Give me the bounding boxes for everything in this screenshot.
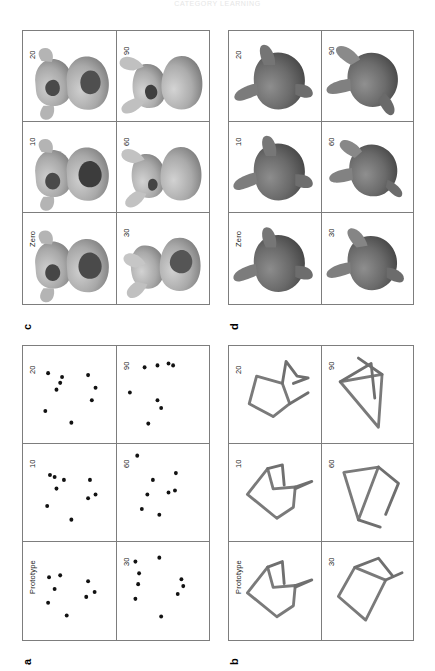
panel-c: 20 [22, 30, 210, 305]
panel-d-label-zero: Zero [234, 231, 243, 247]
wireframe-20 [229, 346, 321, 443]
panel-c-label-10: 10 [28, 137, 37, 146]
panel-d-grid: 20 [229, 31, 413, 304]
panel-a-cell-60: 60 [116, 444, 209, 542]
creature-head-20 [229, 31, 321, 121]
figure-page: CATEGORY LEARNING [0, 0, 435, 671]
panel-b-cell-60: 60 [321, 444, 413, 542]
panel-d-cell-zero: Zero [229, 213, 321, 304]
panel-b-grid: 20 90 [229, 346, 413, 640]
panel-b-label-60: 60 [327, 459, 336, 468]
creature-head-60 [322, 122, 413, 212]
creature-head-30 [322, 213, 413, 304]
creature-body-10 [23, 122, 116, 212]
panel-b-label-30: 30 [327, 557, 336, 566]
panel-b-cell-10: 10 [229, 444, 321, 542]
panel-c-grid: 20 [23, 31, 209, 304]
creature-body-60 [117, 122, 209, 212]
creature-body-20 [23, 31, 116, 121]
panel-c-cell-10: 10 [23, 122, 116, 213]
creature-head-10 [229, 122, 321, 212]
panel-a-label-prototype: Prototype [28, 560, 37, 594]
panel-d-label-30: 30 [327, 228, 336, 237]
panel-a-cell-10: 10 [23, 444, 116, 542]
panel-b: 20 90 [228, 345, 414, 641]
panel-c-cell-60: 60 [116, 122, 209, 213]
panel-b-label-prototype: Prototype [234, 560, 243, 594]
panel-c-label-zero: Zero [28, 231, 37, 247]
dot-pattern-20 [23, 346, 116, 443]
creature-head-zero [229, 213, 321, 304]
panel-d: 20 [228, 30, 414, 305]
panel-d-cell-20: 20 [229, 31, 321, 122]
panel-a-label-10: 10 [28, 459, 37, 468]
panel-c-cell-30: 30 [116, 213, 209, 304]
panel-letter-a: a [21, 659, 33, 665]
panel-d-label-90: 90 [327, 46, 336, 55]
creature-body-90 [117, 31, 209, 121]
panel-a-cell-prototype: Prototype [23, 542, 116, 640]
panel-b-label-10: 10 [234, 459, 243, 468]
creature-body-zero [23, 213, 116, 304]
panel-d-cell-60: 60 [321, 122, 413, 213]
panel-d-label-20: 20 [234, 50, 243, 59]
panel-a-cell-30: 30 [116, 542, 209, 640]
panel-a-cell-20: 20 [23, 346, 116, 444]
panel-a-grid: 20 90 [23, 346, 209, 640]
panel-a-label-30: 30 [122, 557, 131, 566]
panel-b-cell-prototype: Prototype [229, 542, 321, 640]
panel-c-cell-zero: Zero [23, 213, 116, 304]
panel-d-cell-30: 30 [321, 213, 413, 304]
panel-a: 20 90 [22, 345, 210, 641]
panel-d-label-10: 10 [234, 137, 243, 146]
panel-b-cell-30: 30 [321, 542, 413, 640]
running-head: CATEGORY LEARNING [0, 0, 435, 10]
panel-c-label-30: 30 [122, 228, 131, 237]
panel-c-label-20: 20 [28, 50, 37, 59]
creature-head-90 [322, 31, 413, 121]
panel-d-cell-10: 10 [229, 122, 321, 213]
panel-letter-d: d [228, 323, 240, 330]
panel-a-label-20: 20 [28, 365, 37, 374]
panel-a-cell-90: 90 [116, 346, 209, 444]
panel-b-cell-90: 90 [321, 346, 413, 444]
panel-letter-c: c [21, 324, 33, 330]
panel-c-cell-90: 90 [116, 31, 209, 122]
panel-c-label-90: 90 [122, 46, 131, 55]
panel-b-label-20: 20 [234, 365, 243, 374]
panel-b-label-90: 90 [327, 361, 336, 370]
panel-a-label-60: 60 [122, 459, 131, 468]
panel-a-label-90: 90 [122, 361, 131, 370]
panel-letter-b: b [228, 658, 240, 665]
panel-d-cell-90: 90 [321, 31, 413, 122]
panel-c-label-60: 60 [122, 137, 131, 146]
panel-b-cell-20: 20 [229, 346, 321, 444]
panel-d-label-60: 60 [327, 137, 336, 146]
panel-c-cell-20: 20 [23, 31, 116, 122]
creature-body-30 [117, 213, 209, 304]
